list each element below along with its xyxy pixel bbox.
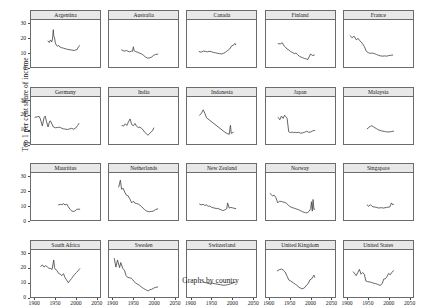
y-tick-label: 10 [13, 50, 26, 56]
panel-title: New Zealand [186, 163, 257, 172]
y-tick-label: 0 [13, 141, 26, 147]
y-tick-mark [28, 115, 30, 116]
plot-area [108, 96, 179, 145]
panel-title: Japan [265, 87, 336, 96]
y-tick-label: 20 [13, 264, 26, 270]
panel-title: Norway [265, 163, 336, 172]
panel-title: France [343, 10, 414, 19]
x-tick-label: 1900 [25, 300, 43, 306]
series-line-svg [109, 173, 178, 220]
panel-title: Malaysia [343, 87, 414, 96]
panel-japan: Japan [265, 87, 336, 145]
plot-area [108, 172, 179, 221]
plot-area [30, 19, 101, 68]
series-line-svg [344, 20, 413, 67]
x-tick-label: 1950 [359, 300, 377, 306]
y-tick-mark [28, 298, 30, 299]
y-tick-label: 20 [13, 188, 26, 194]
series-line-svg [266, 97, 335, 144]
panel-singapore: Singapore [343, 163, 414, 221]
plot-area [343, 96, 414, 145]
panel-australia: Australia [108, 10, 179, 68]
panel-norway: Norway [265, 163, 336, 221]
series-line-svg [266, 250, 335, 297]
y-tick-mark [28, 38, 30, 39]
panel-switzerland: Switzerland [186, 240, 257, 298]
series-line-svg [109, 20, 178, 67]
x-tick-label: 1900 [338, 300, 356, 306]
panel-netherlands: Netherlands [108, 163, 179, 221]
panel-south-africa: South Africa [30, 240, 101, 298]
panel-malaysia: Malaysia [343, 87, 414, 145]
panel-mauritius: Mauritius [30, 163, 101, 221]
x-tick-label: 1950 [281, 300, 299, 306]
series-line-svg [187, 97, 256, 144]
panel-title: Singapore [343, 163, 414, 172]
y-tick-mark [28, 53, 30, 54]
y-tick-mark [28, 268, 30, 269]
x-tick-label: 1950 [46, 300, 64, 306]
series-line-svg [31, 173, 100, 220]
series-line-svg [31, 97, 100, 144]
series-line-svg [187, 250, 256, 297]
panel-title: South Africa [30, 240, 101, 249]
y-tick-mark [28, 68, 30, 69]
x-tick-label: 2050 [401, 300, 419, 306]
y-tick-label: 30 [13, 97, 26, 103]
x-tick-label: 2000 [223, 300, 241, 306]
y-tick-label: 20 [13, 35, 26, 41]
plot-area [186, 19, 257, 68]
panel-title: Netherlands [108, 163, 179, 172]
y-tick-label: 0 [13, 65, 26, 71]
x-tick-label: 2000 [67, 300, 85, 306]
y-tick-mark [28, 253, 30, 254]
y-tick-mark [28, 206, 30, 207]
panel-title: Argentina [30, 10, 101, 19]
series-line-svg [344, 97, 413, 144]
panel-title: Mauritius [30, 163, 101, 172]
panel-title: Germany [30, 87, 101, 96]
plot-area [186, 249, 257, 298]
chart-caption: Graphs by country [0, 276, 421, 285]
plot-area [108, 19, 179, 68]
panel-new-zealand: New Zealand [186, 163, 257, 221]
plot-area [30, 172, 101, 221]
panel-finland: Finland [265, 10, 336, 68]
y-tick-label: 0 [13, 294, 26, 300]
series-line-svg [31, 250, 100, 297]
plot-area [265, 172, 336, 221]
x-tick-label: 1950 [124, 300, 142, 306]
plot-area [186, 96, 257, 145]
panel-title: India [108, 87, 179, 96]
panel-germany: Germany [30, 87, 101, 145]
y-tick-mark [28, 130, 30, 131]
plot-area [265, 249, 336, 298]
y-tick-label: 30 [13, 20, 26, 26]
plot-area [343, 19, 414, 68]
x-tick-label: 1900 [260, 300, 278, 306]
series-line-svg [344, 173, 413, 220]
series-line-svg [109, 97, 178, 144]
panel-title: Sweden [108, 240, 179, 249]
y-tick-mark [28, 221, 30, 222]
plot-area [30, 249, 101, 298]
x-tick-label: 1900 [182, 300, 200, 306]
x-tick-label: 1950 [202, 300, 220, 306]
panel-title: United Kingdom [265, 240, 336, 249]
panel-title: Canada [186, 10, 257, 19]
panel-france: France [343, 10, 414, 68]
plot-area [265, 19, 336, 68]
series-line-svg [266, 173, 335, 220]
y-tick-label: 10 [13, 203, 26, 209]
y-tick-label: 0 [13, 218, 26, 224]
series-line-svg [266, 20, 335, 67]
panel-sweden: Sweden [108, 240, 179, 298]
y-tick-mark [28, 145, 30, 146]
panel-title: Australia [108, 10, 179, 19]
y-tick-label: 20 [13, 111, 26, 117]
y-tick-label: 30 [13, 250, 26, 256]
y-tick-mark [28, 100, 30, 101]
series-line-svg [187, 20, 256, 67]
y-tick-mark [28, 23, 30, 24]
